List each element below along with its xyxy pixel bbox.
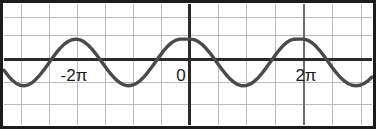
graph-background [0,0,376,129]
graph-canvas: -2π 0 2π [0,0,376,129]
cosine-graph-figure: -2π 0 2π [0,0,376,129]
x-tick-label-2pi: 2π [295,66,316,85]
x-tick-label-minus-2pi: -2π [61,66,88,85]
x-tick-label-origin: 0 [176,66,185,85]
plot-area: -2π 0 2π [0,0,376,129]
